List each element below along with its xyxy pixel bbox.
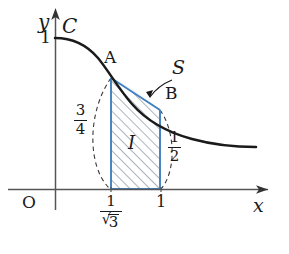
dashed-arc-left (93, 78, 111, 189)
fraction-numerator: 3 (75, 103, 87, 118)
fraction-denominator: 4 (75, 122, 87, 137)
origin-label-O: O (22, 194, 36, 211)
point-label-A: A (104, 49, 116, 66)
region-label-I: I (128, 134, 135, 152)
sliver-label-S: S (172, 58, 185, 77)
fraction-denominator: 2 (169, 149, 181, 164)
sqrt-group: √ 3 (103, 213, 120, 230)
x-tick-label-one-over-sqrt-three: 1 √ 3 (100, 194, 122, 230)
fraction-numerator: 1 (105, 194, 117, 209)
fraction-denominator: √ 3 (102, 213, 121, 230)
radical-symbol-icon: √ (102, 212, 111, 226)
value-label-one-half: 1 2 (168, 130, 181, 164)
x-axis-label: x (253, 196, 264, 215)
y-tick-label-1: 1 (40, 29, 51, 46)
value-label-three-quarters: 3 4 (74, 103, 87, 137)
figure-canvas: y 1 C A B S I O x 3 4 1 2 1 √ 3 1 (0, 0, 289, 254)
curve-label-C: C (62, 16, 77, 36)
x-tick-label-one: 1 (156, 194, 166, 210)
point-label-B: B (165, 85, 178, 102)
fraction-numerator: 1 (169, 130, 181, 145)
